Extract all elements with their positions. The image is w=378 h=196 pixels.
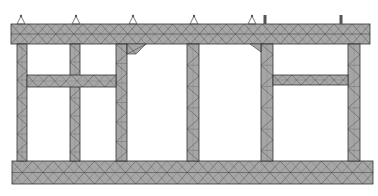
support-1-pin-support-icon xyxy=(17,15,25,24)
support-3-pin-support-icon xyxy=(129,15,137,24)
mid-beam-left xyxy=(27,75,116,87)
support-7-post-support-icon xyxy=(340,15,343,24)
fem-frame-diagram xyxy=(0,0,378,196)
mid-beam-right xyxy=(273,75,348,85)
frame-members xyxy=(11,24,373,184)
support-4-pin-support-icon xyxy=(190,15,198,24)
bottom-beam xyxy=(12,161,373,184)
support-markers xyxy=(17,15,343,24)
column-2 xyxy=(70,44,80,161)
support-2-pin-support-icon xyxy=(72,15,80,24)
column-1 xyxy=(17,44,27,161)
support-5-pin-support-icon xyxy=(248,15,256,24)
mesh-canvas xyxy=(0,0,378,196)
column-6 xyxy=(348,44,360,161)
column-4 xyxy=(187,44,199,161)
support-6-post-support-icon xyxy=(264,15,267,24)
column-3 xyxy=(116,44,127,161)
haunch-col3 xyxy=(127,44,146,54)
column-5 xyxy=(261,44,273,161)
top-beam xyxy=(11,24,370,44)
haunch-col5 xyxy=(250,44,261,52)
